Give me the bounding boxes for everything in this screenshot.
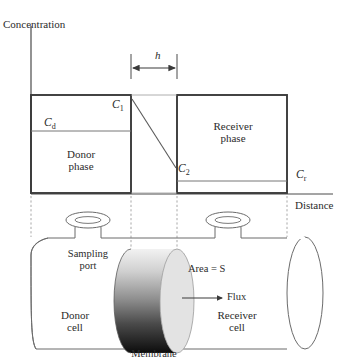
concentration-receiver-label: Cr (296, 168, 306, 184)
donor-cell-line-2: cell (50, 321, 100, 333)
receiver-cell-label: Receiver cell (208, 309, 266, 334)
sampling-port-donor-inner (75, 217, 101, 224)
x-axis-label: Distance (295, 199, 333, 211)
cr-symbol: C (296, 168, 304, 180)
flux-label: Flux (227, 291, 246, 303)
sampling-port-line-1: Sampling (52, 248, 124, 260)
sampling-port-receiver-inner (215, 217, 241, 224)
concentration-donor-label: Cd (44, 116, 56, 132)
cell-right-end-cap (287, 237, 323, 349)
membrane-diffusion-figure: Concentration Distance h Cd C1 C2 Cr Don… (0, 0, 342, 362)
donor-phase-line-1: Donor (56, 148, 106, 160)
y-axis-label: Concentration (3, 18, 65, 30)
cr-subscript: r (304, 174, 307, 183)
c1-subscript: 1 (120, 104, 124, 113)
c1-symbol: C (112, 98, 120, 110)
donor-cell-label: Donor cell (50, 309, 100, 334)
donor-cell-line-1: Donor (50, 309, 100, 321)
receiver-phase-line-1: Receiver (204, 120, 262, 132)
receiver-cell-line-2: cell (208, 321, 266, 333)
concentration-gradient-line (132, 99, 176, 168)
cell-left-end-cap (31, 238, 48, 349)
receiver-cell-line-1: Receiver (208, 309, 266, 321)
c2-symbol: C (178, 162, 186, 174)
donor-phase-label: Donor phase (56, 148, 106, 173)
cd-symbol: C (44, 116, 52, 128)
cd-subscript: d (52, 122, 56, 131)
membrane-area-label: Area = S (188, 263, 225, 275)
concentration-c1-label: C1 (112, 98, 124, 114)
sampling-port-label: Sampling port (52, 248, 124, 272)
receiver-phase-line-2: phase (204, 132, 262, 144)
concentration-c2-label: C2 (178, 162, 190, 178)
donor-phase-line-2: phase (56, 160, 106, 172)
membrane-label: Membrane (121, 348, 187, 360)
membrane-thickness-label: h (155, 49, 161, 61)
c2-subscript: 2 (186, 168, 190, 177)
sampling-port-line-2: port (52, 260, 124, 272)
figure-vector-graphics (0, 0, 342, 362)
receiver-phase-label: Receiver phase (204, 120, 262, 145)
